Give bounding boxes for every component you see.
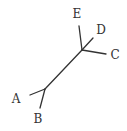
phylogenetic-tree: ABCDE xyxy=(0,0,127,131)
leaf-label-e: E xyxy=(73,7,82,21)
branch-c xyxy=(82,50,106,54)
leaf-labels: ABCDE xyxy=(11,7,120,126)
leaf-label-b: B xyxy=(34,112,43,126)
leaf-label-d: D xyxy=(96,23,106,37)
leaf-label-c: C xyxy=(110,48,119,62)
branch-a xyxy=(30,89,45,95)
branch-e xyxy=(79,26,82,50)
branch-d xyxy=(82,38,93,50)
leaf-label-a: A xyxy=(11,92,21,106)
internal-branch xyxy=(45,50,82,89)
tree-edges xyxy=(30,26,106,108)
branch-b xyxy=(40,89,45,108)
